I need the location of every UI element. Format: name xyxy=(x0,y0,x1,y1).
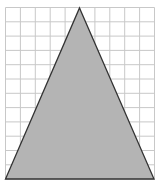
triangle-on-grid-figure xyxy=(0,0,162,184)
